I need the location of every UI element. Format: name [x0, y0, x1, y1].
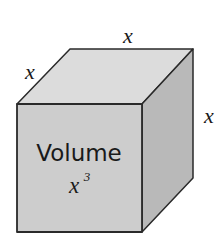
cube-front-face: [17, 104, 142, 232]
formula-base: x: [68, 173, 80, 198]
volume-label: Volume: [36, 140, 122, 166]
edge-label-top: x: [122, 23, 133, 48]
edge-label-left: x: [24, 59, 35, 84]
volume-formula: x: [68, 173, 80, 198]
cube-diagram: x x x Volume x 3: [0, 0, 222, 247]
formula-exponent: 3: [83, 169, 91, 184]
edge-label-right: x: [203, 103, 214, 128]
